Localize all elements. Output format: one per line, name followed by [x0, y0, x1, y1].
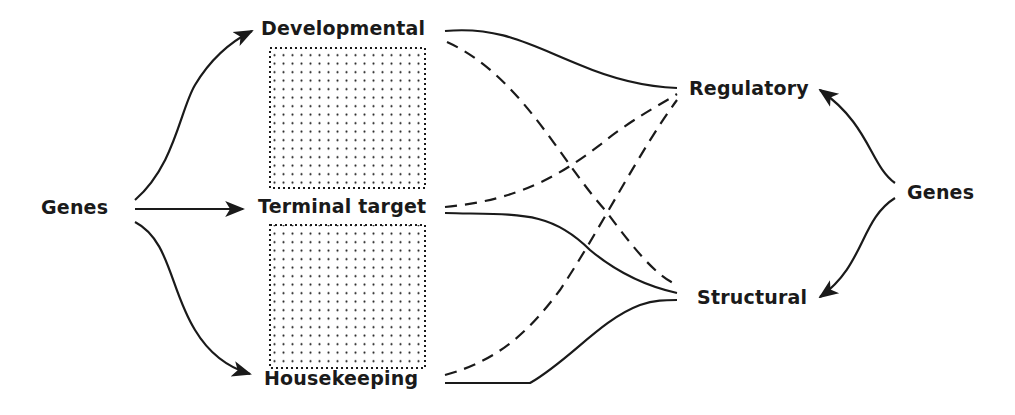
arrow-genes-to-developmental: [135, 31, 252, 200]
node-genes-left: Genes: [41, 198, 108, 217]
node-housekeeping: Housekeeping: [264, 369, 418, 388]
node-terminal-target: Terminal target: [258, 197, 426, 216]
gene-classification-diagram: Developmental Terminal target Housekeepi…: [0, 0, 1015, 415]
node-developmental: Developmental: [261, 19, 425, 38]
right-genes-arrows: [820, 90, 895, 297]
node-genes-right: Genes: [907, 183, 974, 202]
line-terminal-to-regulatory: [445, 94, 677, 207]
node-regulatory: Regulatory: [689, 79, 809, 98]
line-housekeeping-to-structural: [445, 300, 677, 383]
arrow-genes-to-housekeeping: [135, 222, 250, 374]
dashed-connections: [445, 42, 677, 375]
dotted-region-lower: [270, 225, 425, 368]
arrow-genes-to-regulatory: [820, 90, 895, 183]
left-genes-arrows: [135, 31, 252, 374]
node-structural: Structural: [697, 288, 807, 307]
dotted-region-upper: [270, 48, 425, 188]
line-developmental-to-regulatory: [445, 30, 677, 88]
diagram-graphics: [0, 0, 1015, 415]
arrow-genes-to-structural: [820, 198, 895, 297]
line-developmental-to-structural: [447, 42, 677, 285]
solid-connections: [445, 30, 677, 383]
line-terminal-to-structural: [445, 213, 677, 293]
line-housekeeping-to-regulatory: [445, 100, 677, 375]
